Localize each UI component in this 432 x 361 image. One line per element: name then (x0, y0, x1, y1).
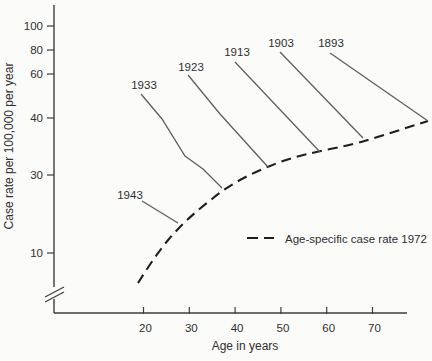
x-tick-label: 70 (368, 322, 381, 334)
x-axis-title: Age in years (212, 339, 279, 353)
series-layer: 194319331923191319031893 (117, 37, 428, 283)
y-tick-label: 60 (30, 68, 43, 80)
y-tick-label: 10 (30, 247, 43, 259)
legend-label: Age-specific case rate 1972 (285, 233, 427, 245)
cohort-line-1923 (188, 75, 268, 167)
y-tick-label: 30 (30, 169, 43, 181)
cohort-label-1893: 1893 (318, 37, 344, 49)
cohort-label-1943: 1943 (117, 189, 143, 201)
y-axis-title: Case rate per 100,000 per year (2, 63, 16, 230)
cohort-line-1903 (280, 52, 363, 138)
x-tick-label: 50 (277, 322, 290, 334)
cohort-label-1903: 1903 (268, 37, 294, 49)
cohort-line-1893 (330, 53, 428, 121)
x-tick-label: 40 (231, 322, 244, 334)
cohort-case-rate-chart: 194319331923191319031893 100806040301020… (0, 0, 432, 361)
chart-canvas: 194319331923191319031893 100806040301020… (0, 0, 432, 361)
cohort-label-1933: 1933 (131, 79, 157, 91)
case-rate-curve-1972 (138, 121, 428, 283)
axes-layer: 1008060403010203040506070 (24, 5, 407, 334)
y-tick-label: 40 (30, 112, 43, 124)
cohort-label-1913: 1913 (224, 46, 250, 58)
x-tick-label: 60 (322, 322, 335, 334)
y-tick-label: 80 (30, 44, 43, 56)
x-tick-label: 30 (185, 322, 198, 334)
y-tick-label: 100 (24, 20, 43, 32)
cohort-line-1913 (235, 62, 320, 152)
cohort-label-1923: 1923 (178, 61, 204, 73)
cohort-line-1943 (142, 201, 178, 223)
x-tick-label: 20 (139, 322, 152, 334)
legend: Age-specific case rate 1972 (247, 233, 427, 245)
cohort-line-1933 (141, 94, 222, 188)
